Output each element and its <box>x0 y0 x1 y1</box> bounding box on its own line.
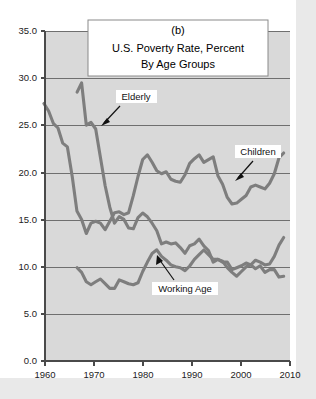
y-tick-label: 5.0 <box>24 308 37 319</box>
y-tick-label: 10.0 <box>19 261 38 272</box>
x-tick-label: 1980 <box>132 369 153 380</box>
elderly-label: Elderly <box>121 91 150 102</box>
chart-title-line1: U.S. Poverty Rate, Percent <box>112 42 244 54</box>
page-edge-shade <box>296 0 316 399</box>
children-label: Children <box>240 146 275 157</box>
chart-title-box: (b) U.S. Poverty Rate, Percent By Age Gr… <box>88 20 268 76</box>
poverty-rate-chart: 0.0 5.0 10.0 15.0 20.0 25.0 30.0 35.0 19… <box>0 0 316 399</box>
y-tick-label: 35.0 <box>19 25 38 36</box>
x-tick-label: 1960 <box>34 369 55 380</box>
x-tick-label: 1990 <box>181 369 202 380</box>
x-tick-label: 1970 <box>83 369 104 380</box>
chart-title-line2: By Age Groups <box>141 58 215 70</box>
x-tick-label: 2000 <box>230 369 251 380</box>
poverty-rate-figure: 0.0 5.0 10.0 15.0 20.0 25.0 30.0 35.0 19… <box>0 0 316 399</box>
y-tick-label: 0.0 <box>24 355 37 366</box>
working-age-label: Working Age <box>158 283 212 294</box>
panel-label: (b) <box>171 24 184 36</box>
y-tick-label: 20.0 <box>19 167 38 178</box>
y-tick-label: 30.0 <box>19 72 38 83</box>
x-tick-label: 2010 <box>279 369 300 380</box>
plot-area-background <box>45 31 290 361</box>
y-tick-label: 15.0 <box>19 214 38 225</box>
page-bottom-shade <box>0 378 316 399</box>
y-tick-label: 25.0 <box>19 119 38 130</box>
y-tick-labels: 0.0 5.0 10.0 15.0 20.0 25.0 30.0 35.0 <box>19 25 38 366</box>
